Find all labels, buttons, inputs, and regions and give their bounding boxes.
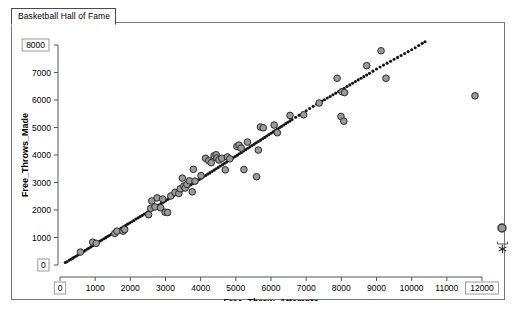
asterisk-icon[interactable] [496, 238, 509, 254]
data-point[interactable] [357, 78, 360, 81]
data-point[interactable] [189, 189, 196, 196]
data-point[interactable] [417, 44, 420, 47]
y-tick-label-3000: 3000 [32, 178, 51, 188]
data-point[interactable] [341, 89, 348, 96]
data-point[interactable] [403, 52, 406, 55]
data-point[interactable] [308, 107, 311, 110]
data-point[interactable] [164, 209, 171, 216]
data-point[interactable] [386, 62, 389, 65]
data-point[interactable] [244, 139, 251, 146]
data-point[interactable] [354, 80, 357, 83]
data-point[interactable] [159, 196, 166, 203]
data-point[interactable] [371, 70, 374, 73]
data-point[interactable] [362, 75, 365, 78]
data-point[interactable] [271, 122, 278, 129]
y-tick-label-4000: 4000 [32, 150, 51, 160]
x-endpoint-label-0: 0 [58, 283, 63, 293]
data-point[interactable] [274, 129, 281, 136]
data-point[interactable] [334, 75, 341, 82]
data-point[interactable] [241, 166, 248, 173]
plot-window-app: Basketball Hall of Fame 0100020003000400… [0, 0, 518, 311]
data-point[interactable] [198, 172, 205, 179]
data-point[interactable] [253, 173, 260, 180]
data-point[interactable] [93, 240, 100, 247]
scatter-plot-canvas[interactable]: 010002000300040005000600070008000Free_Th… [12, 23, 506, 301]
circle-point-icon[interactable] [496, 222, 508, 234]
data-point[interactable] [351, 82, 354, 85]
x-tick-label-10000: 10000 [400, 283, 424, 293]
data-point[interactable] [227, 156, 234, 163]
data-point[interactable] [345, 85, 348, 88]
x-axis-title: Free_Throw_Attempts [223, 297, 318, 301]
y-endpoint-label-0: 0 [41, 260, 46, 270]
data-point[interactable] [312, 105, 315, 108]
data-point[interactable] [331, 93, 334, 96]
data-point[interactable] [260, 124, 267, 131]
data-point[interactable] [294, 116, 297, 119]
data-point[interactable] [359, 77, 362, 80]
x-endpoint-label-12000: 12000 [470, 283, 494, 293]
data-point[interactable] [375, 67, 378, 70]
x-tick-label-5000: 5000 [226, 283, 245, 293]
x-tick-label-7000: 7000 [297, 283, 316, 293]
data-point[interactable] [77, 249, 84, 256]
x-tick-label-2000: 2000 [121, 283, 140, 293]
data-point[interactable] [368, 72, 371, 75]
data-point[interactable] [326, 97, 329, 100]
y-endpoint-label-8000: 8000 [26, 40, 45, 50]
data-point[interactable] [190, 166, 197, 173]
plot-window-frame: 010002000300040005000600070008000Free_Th… [11, 22, 505, 300]
data-point[interactable] [208, 159, 215, 166]
data-point[interactable] [255, 147, 262, 154]
series-highlighted-players[interactable] [77, 47, 478, 255]
x-tick-label-9000: 9000 [367, 283, 386, 293]
data-point[interactable] [363, 62, 370, 69]
data-point[interactable] [382, 64, 385, 67]
data-point[interactable] [300, 112, 307, 119]
window-tab-basketball-hall-of-fame[interactable]: Basketball Hall of Fame [11, 8, 116, 25]
y-axis-title: Free_Throws_Made [20, 113, 30, 197]
data-point[interactable] [287, 112, 294, 119]
data-point[interactable] [410, 48, 413, 51]
data-point[interactable] [383, 75, 390, 82]
data-point[interactable] [407, 50, 410, 53]
data-point[interactable] [238, 145, 245, 152]
data-point[interactable] [365, 73, 368, 76]
y-tick-label-2000: 2000 [32, 205, 51, 215]
y-tick-label-1000: 1000 [32, 233, 51, 243]
x-tick-label-1000: 1000 [86, 283, 105, 293]
data-point[interactable] [323, 98, 326, 101]
y-tick-label-7000: 7000 [32, 68, 51, 78]
data-point[interactable] [329, 95, 332, 98]
x-tick-label-8000: 8000 [332, 283, 351, 293]
y-tick-label-6000: 6000 [32, 95, 51, 105]
data-point[interactable] [389, 60, 392, 63]
data-point[interactable] [423, 40, 426, 43]
data-point[interactable] [348, 83, 351, 86]
data-point[interactable] [179, 175, 186, 182]
data-point[interactable] [316, 100, 323, 107]
data-point[interactable] [472, 93, 479, 100]
x-tick-label-6000: 6000 [262, 283, 281, 293]
data-point[interactable] [192, 178, 199, 185]
data-point[interactable] [145, 211, 152, 218]
data-point[interactable] [378, 47, 385, 54]
plot-tool-strip [492, 222, 512, 258]
y-tick-label-5000: 5000 [32, 123, 51, 133]
data-point[interactable] [222, 167, 229, 174]
data-point[interactable] [121, 226, 128, 233]
data-point[interactable] [378, 65, 381, 68]
data-point[interactable] [396, 56, 399, 59]
x-tick-label-4000: 4000 [191, 283, 210, 293]
x-tick-label-11000: 11000 [435, 283, 458, 293]
data-point[interactable] [400, 54, 403, 57]
scatter-plot-region[interactable]: 010002000300040005000600070008000Free_Th… [12, 23, 506, 301]
data-point[interactable] [414, 46, 417, 49]
data-point[interactable] [334, 92, 337, 95]
data-point[interactable] [421, 42, 424, 45]
data-point[interactable] [341, 118, 348, 125]
data-point[interactable] [393, 58, 396, 61]
x-tick-label-3000: 3000 [156, 283, 175, 293]
